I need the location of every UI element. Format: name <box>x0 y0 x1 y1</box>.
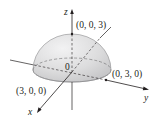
point-label-y-intercept: (0, 3, 0) <box>112 69 142 80</box>
z-axis-label: z <box>63 7 68 17</box>
y-axis-back <box>10 60 34 65</box>
origin-label: 0 <box>65 62 70 72</box>
point-y-intercept <box>105 79 107 81</box>
point-label-x-intercept: (3, 0, 0) <box>16 86 46 97</box>
y-axis-arrowhead <box>143 87 149 91</box>
point-top <box>71 33 73 35</box>
point-label-top: (0, 0, 3) <box>76 20 106 31</box>
x-axis-label: x <box>27 107 33 117</box>
z-axis-arrowhead <box>70 9 74 14</box>
y-axis-front <box>106 80 146 89</box>
y-axis-label: y <box>143 93 149 103</box>
hemisphere-diagram: z y x 0 (0, 0, 3) (0, 3, 0) (3, 0, 0) <box>0 0 158 121</box>
